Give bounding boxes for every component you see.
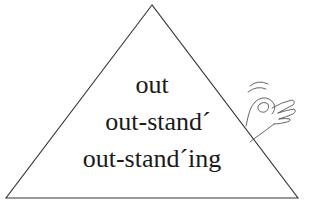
word-out-stand: out-stand´ (6, 109, 310, 135)
word-out: out (0, 72, 304, 98)
syllable-stress-diagram: out out-stand´ out-stand´ing (0, 0, 319, 204)
ok-hand-icon (0, 0, 319, 204)
word-out-standing: out-stand´ing (0, 146, 304, 172)
